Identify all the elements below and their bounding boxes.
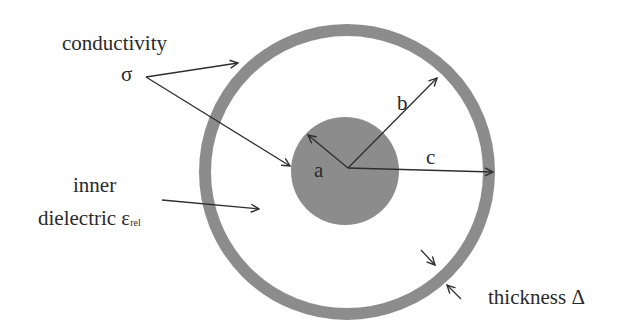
label-thickness: thickness Δ <box>488 285 585 309</box>
label-radius-a: a <box>314 158 324 182</box>
label-inner: inner <box>73 173 116 197</box>
thickness-arrow-outer <box>421 250 435 265</box>
label-conductivity: conductivity <box>62 31 167 55</box>
label-dielectric-sub: rel <box>130 217 141 228</box>
label-dielectric-main: dielectric ε <box>38 206 130 230</box>
coax-diagram: conductivity σ inner dielectric εrel a b… <box>0 0 642 334</box>
sigma-arrow-outer <box>146 63 238 77</box>
label-radius-b: b <box>397 91 408 115</box>
sigma-arrow-inner <box>146 77 290 166</box>
thickness-arrow-inner <box>447 285 461 299</box>
label-radius-c: c <box>426 145 435 169</box>
label-dielectric: dielectric εrel <box>38 206 141 230</box>
label-sigma: σ <box>121 62 132 86</box>
